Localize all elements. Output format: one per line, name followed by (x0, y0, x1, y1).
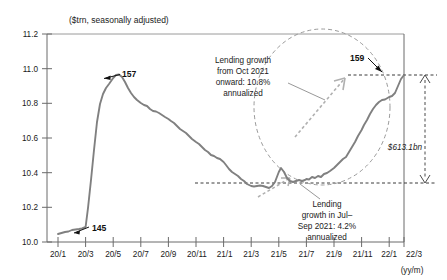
annotation-line: Sep 2021: 4.2% (298, 222, 356, 231)
x-tick-label: 22/1 (381, 250, 397, 259)
annotation-line: annualized (223, 89, 263, 98)
x-tick-label: 20/7 (133, 250, 149, 259)
annotation-line: growth in Jul– (302, 211, 353, 220)
annotation-line: annualized (307, 233, 347, 242)
x-tick-label: 21/5 (271, 250, 287, 259)
steep-trend-arrow-icon (295, 78, 345, 137)
x-tick-label: 20/3 (78, 250, 94, 259)
y-tick-labels-group: 11.2 11.0 10.8 10.6 10.4 10.2 10.0 (22, 30, 38, 247)
x-tick-label: 21/3 (243, 250, 259, 259)
x-tick-label: 21/1 (217, 250, 233, 259)
annotation-lending-growth-oct-2021: Lending growth from Oct 2021 onward: 10.… (215, 56, 325, 100)
y-tick-label: 10.4 (22, 169, 38, 178)
x-tick-label: 21/11 (353, 250, 373, 259)
y-tick-label: 10.0 (22, 238, 38, 247)
lending-line-chart: 11.2 11.0 10.8 10.6 10.4 10.2 10.0 (0, 0, 447, 280)
y-tick-label: 11.0 (23, 65, 39, 74)
x-tick-label: 20/5 (105, 250, 121, 259)
y-tick-label: 10.2 (22, 203, 38, 212)
measurement-label-613bn: $613.1bn (387, 143, 423, 152)
y-tick-label: 10.8 (22, 99, 38, 108)
point-label-145: 145 (92, 223, 107, 233)
measurement-bracket-613bn: $613.1bn (387, 75, 430, 183)
x-axis-unit-label: (yy/m) (401, 266, 424, 275)
annotation-line: Lending growth (215, 56, 271, 65)
chart-unit-title: ($trn, seasonally adjusted) (69, 15, 169, 25)
x-tick-label: 22/3 (406, 250, 422, 259)
annotation-line: Lending (312, 200, 342, 209)
point-label-159-group: 159 (350, 53, 382, 72)
chart-container: 11.2 11.0 10.8 10.6 10.4 10.2 10.0 (0, 0, 447, 280)
x-tick-label: 21/9 (326, 250, 342, 259)
annotation-lending-growth-jul-sep-2021: Lending growth in Jul– Sep 2021: 4.2% an… (298, 184, 356, 242)
annotation-leader-line (300, 184, 320, 199)
y-tick-label: 10.6 (22, 134, 38, 143)
annotation-line: onward: 10.8% (216, 78, 271, 87)
x-tick-label: 20/1 (50, 250, 66, 259)
y-tick-label: 11.2 (23, 30, 39, 39)
x-tick-label: 21/7 (298, 250, 314, 259)
point-label-159: 159 (350, 53, 365, 63)
shallow-trend-arrow-icon (258, 178, 290, 197)
point-label-157: 157 (122, 69, 137, 79)
x-tick-label: 20/9 (160, 250, 176, 259)
x-tick-label: 20/11 (187, 250, 207, 259)
x-tick-labels-group: 20/1 20/3 20/5 20/7 20/9 20/11 21/1 21/3… (50, 250, 422, 259)
annotation-leader-line (288, 83, 325, 100)
highlight-ellipse (254, 29, 390, 185)
annotation-line: from Oct 2021 (217, 67, 269, 76)
